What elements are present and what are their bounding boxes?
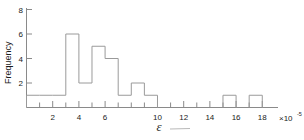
y-tick-label: 6 xyxy=(19,30,24,39)
x-tick-label: 2 xyxy=(50,113,55,122)
x-tick-label: 6 xyxy=(103,113,108,122)
scan-artifact-underline xyxy=(170,129,190,130)
histogram-figure: Frequency 2468 2461012141618 ε ×10 -5 xyxy=(0,0,304,140)
histogram-bars xyxy=(27,34,263,108)
histogram-canvas: Frequency 2468 2461012141618 ε ×10 -5 xyxy=(0,0,304,140)
x-axis-ticks: 2461012141618 xyxy=(40,101,268,122)
histogram-bar-group xyxy=(27,34,158,108)
histogram-bar-group xyxy=(249,95,262,107)
y-axis-ticks: 2468 xyxy=(19,6,32,89)
x-axis-multiplier-exponent: -5 xyxy=(297,111,302,117)
y-tick-label: 2 xyxy=(19,79,24,88)
x-tick-label: 16 xyxy=(232,113,241,122)
histogram-bar-group xyxy=(223,95,236,107)
x-tick-label: 14 xyxy=(205,113,214,122)
x-tick-label: 12 xyxy=(179,113,188,122)
x-tick-label: 4 xyxy=(77,113,82,122)
x-axis-multiplier: ×10 xyxy=(279,114,293,123)
x-axis-label: ε xyxy=(156,119,162,134)
y-tick-label: 8 xyxy=(19,6,24,15)
y-axis-label: Frequency xyxy=(3,41,13,84)
y-tick-label: 4 xyxy=(19,55,24,64)
x-tick-label: 18 xyxy=(258,113,267,122)
